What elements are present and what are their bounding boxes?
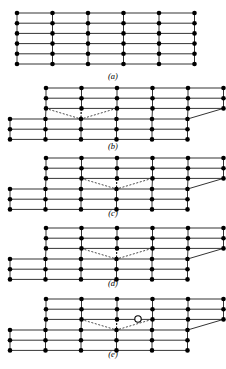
atom bbox=[192, 41, 197, 46]
atom bbox=[192, 31, 197, 36]
atom bbox=[44, 226, 49, 231]
dislocation-arm-right bbox=[117, 248, 153, 259]
atom bbox=[150, 317, 155, 322]
atom bbox=[50, 11, 55, 16]
atom bbox=[186, 317, 191, 322]
atom bbox=[15, 52, 20, 57]
atom bbox=[44, 307, 49, 312]
atom bbox=[114, 187, 119, 192]
atom bbox=[150, 86, 155, 91]
atom bbox=[186, 226, 191, 231]
dislocation-arm-left bbox=[81, 248, 117, 259]
atom bbox=[79, 86, 84, 91]
atom bbox=[221, 106, 226, 111]
atom bbox=[86, 31, 91, 36]
atom bbox=[121, 21, 126, 26]
atom bbox=[186, 176, 191, 181]
atom bbox=[150, 338, 155, 343]
atom bbox=[221, 246, 226, 251]
atom bbox=[150, 267, 155, 272]
atom bbox=[86, 21, 91, 26]
atom bbox=[121, 41, 126, 46]
atom bbox=[44, 297, 49, 302]
atom bbox=[43, 267, 48, 272]
atom bbox=[115, 176, 120, 181]
atom bbox=[86, 41, 91, 46]
atom bbox=[79, 348, 84, 353]
atom bbox=[43, 197, 48, 202]
atom bbox=[79, 246, 84, 251]
atom bbox=[50, 52, 55, 57]
atom bbox=[150, 156, 155, 161]
panel-label-e: (e) bbox=[108, 349, 118, 359]
atom bbox=[150, 236, 155, 241]
atom bbox=[150, 166, 155, 171]
atom bbox=[44, 236, 49, 241]
interface-bond bbox=[188, 178, 224, 189]
atom bbox=[8, 267, 13, 272]
atom bbox=[186, 96, 191, 101]
atom bbox=[221, 307, 226, 312]
atom bbox=[221, 176, 226, 181]
atom bbox=[43, 187, 48, 192]
atom bbox=[50, 62, 55, 67]
atom bbox=[114, 127, 119, 132]
atom bbox=[150, 127, 155, 132]
atom bbox=[185, 328, 190, 333]
atom bbox=[115, 96, 120, 101]
atom bbox=[185, 348, 190, 353]
atom bbox=[43, 277, 48, 282]
atom bbox=[8, 137, 13, 142]
atom bbox=[115, 166, 120, 171]
atom bbox=[50, 21, 55, 26]
atom bbox=[44, 86, 49, 91]
atom bbox=[150, 328, 155, 333]
panel-d bbox=[8, 226, 226, 282]
atom bbox=[157, 31, 162, 36]
atom bbox=[86, 11, 91, 16]
atom bbox=[185, 117, 190, 122]
atom bbox=[79, 257, 84, 262]
atom bbox=[185, 277, 190, 282]
panel-a bbox=[15, 11, 197, 67]
atom bbox=[157, 21, 162, 26]
atom bbox=[79, 187, 84, 192]
panel-label-a: (a) bbox=[108, 71, 118, 81]
atom bbox=[186, 156, 191, 161]
interface-bond bbox=[188, 108, 224, 119]
atom bbox=[79, 156, 84, 161]
atom bbox=[185, 127, 190, 132]
atom bbox=[43, 137, 48, 142]
atom bbox=[79, 106, 84, 111]
vacancy-atom bbox=[135, 316, 141, 322]
atom bbox=[114, 338, 119, 343]
atom bbox=[115, 317, 120, 322]
atom bbox=[150, 197, 155, 202]
atom bbox=[44, 156, 49, 161]
atom bbox=[79, 176, 84, 181]
atom bbox=[43, 117, 48, 122]
atom bbox=[186, 86, 191, 91]
atom bbox=[221, 86, 226, 91]
atom bbox=[157, 11, 162, 16]
atom bbox=[44, 176, 49, 181]
atom bbox=[115, 307, 120, 312]
dislocation-arm-right bbox=[117, 178, 153, 189]
atom bbox=[8, 348, 13, 353]
atom bbox=[79, 207, 84, 212]
atom bbox=[8, 338, 13, 343]
atom bbox=[192, 11, 197, 16]
atom bbox=[8, 187, 13, 192]
atom bbox=[185, 207, 190, 212]
atom bbox=[114, 197, 119, 202]
atom bbox=[186, 166, 191, 171]
atom bbox=[8, 257, 13, 262]
atom bbox=[150, 137, 155, 142]
atom bbox=[114, 267, 119, 272]
atom bbox=[150, 246, 155, 251]
atom bbox=[150, 106, 155, 111]
atom bbox=[43, 207, 48, 212]
atom bbox=[79, 137, 84, 142]
atom bbox=[150, 207, 155, 212]
atom bbox=[79, 166, 84, 171]
